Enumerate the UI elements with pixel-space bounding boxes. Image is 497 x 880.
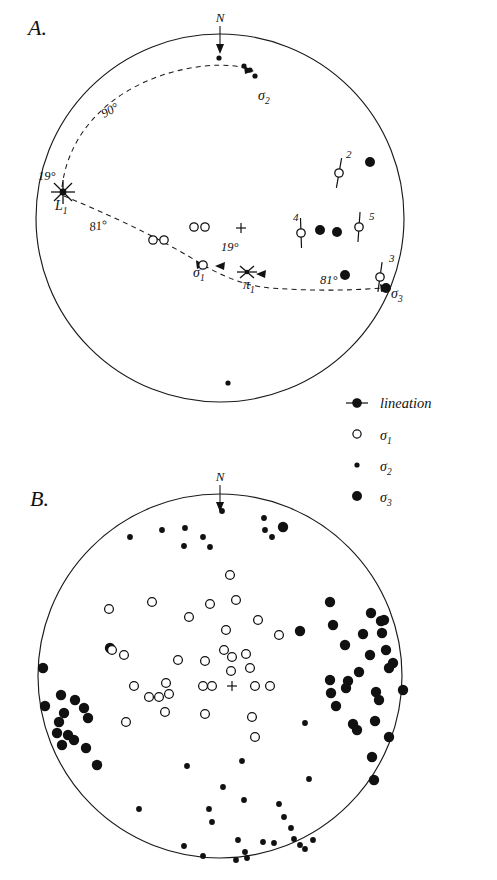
sigma1-point bbox=[199, 682, 208, 691]
center-cross-panel-a bbox=[236, 223, 246, 233]
sigma1-point bbox=[122, 718, 131, 727]
sigma1-point bbox=[246, 664, 255, 673]
sigma3-point bbox=[54, 717, 64, 727]
sigma1-point bbox=[120, 651, 129, 660]
figure-canvas: A. N bbox=[0, 0, 497, 880]
sigma3-point bbox=[376, 616, 386, 626]
legend-lineation-label: lineation bbox=[380, 395, 432, 411]
sigma3-point bbox=[79, 703, 89, 713]
sigma2-point bbox=[127, 534, 133, 540]
legend-sigma1-label: σ1 bbox=[380, 428, 392, 446]
sigma1-point bbox=[130, 682, 139, 691]
sigma2-point bbox=[241, 63, 246, 68]
sigma2-point bbox=[271, 840, 277, 846]
sigma3-point bbox=[40, 701, 50, 711]
sigma2-point bbox=[159, 527, 165, 533]
angle19-arrowhead-left bbox=[215, 262, 225, 270]
sigma2-point bbox=[247, 67, 252, 72]
sigma2-point bbox=[219, 508, 225, 514]
sigma3-point bbox=[315, 225, 325, 235]
sigma3-point bbox=[377, 628, 387, 638]
sigma3-point bbox=[367, 752, 377, 762]
panel-a-letter: A. bbox=[26, 15, 47, 40]
sigma1-point bbox=[201, 710, 210, 719]
sigma1-point bbox=[266, 682, 275, 691]
sigma1-point bbox=[105, 605, 114, 614]
sigma2-point bbox=[302, 720, 308, 726]
sigma3-point bbox=[331, 701, 341, 711]
sigma2-point bbox=[302, 846, 308, 852]
sigma3-point bbox=[352, 725, 362, 735]
sigma1-point bbox=[148, 598, 157, 607]
sigma1-point bbox=[108, 646, 117, 655]
label-pi1: π1 bbox=[243, 277, 255, 295]
north-label: N bbox=[215, 469, 226, 484]
legend-sigma3-symbol bbox=[352, 491, 362, 501]
center-cross-panel-b bbox=[227, 681, 237, 691]
sigma1-point bbox=[251, 733, 260, 742]
lineation-number-label: 3 bbox=[388, 252, 395, 264]
label-subscript: 1 bbox=[200, 273, 205, 283]
sigma1-point bbox=[222, 626, 231, 635]
panel-a: A. N bbox=[26, 10, 404, 402]
lineation-dot bbox=[355, 223, 363, 231]
sigma1-point bbox=[226, 571, 235, 580]
sigma1-point bbox=[248, 713, 257, 722]
sigma1-point bbox=[174, 656, 183, 665]
sigma2-point bbox=[261, 515, 267, 521]
legend-lineation-symbol bbox=[346, 399, 368, 407]
sigma2-point bbox=[181, 543, 187, 549]
sigma2-point bbox=[181, 843, 187, 849]
north-arrow-panel-a: N bbox=[215, 10, 226, 54]
sigma2-point bbox=[220, 784, 226, 790]
lineation-number-label: 5 bbox=[369, 210, 375, 222]
sigma3-point bbox=[70, 695, 80, 705]
sigma3-point bbox=[340, 270, 350, 280]
sigma3-point bbox=[384, 732, 394, 742]
label-L1: L1 bbox=[54, 198, 68, 216]
sigma1-point bbox=[220, 646, 229, 655]
legend: lineation σ1 σ2 σ3 bbox=[346, 395, 432, 508]
label-subscript: 1 bbox=[63, 206, 68, 216]
sigma3-point bbox=[332, 227, 342, 237]
sigma2-point bbox=[235, 837, 241, 843]
sigma3-point bbox=[366, 608, 376, 618]
sigma1-point bbox=[190, 223, 198, 231]
north-arrow-head bbox=[216, 44, 224, 54]
label-sigma2: σ2 bbox=[258, 88, 270, 106]
sigma3-point bbox=[358, 629, 368, 639]
sigma2-point bbox=[136, 806, 142, 812]
lineation-dot bbox=[376, 273, 384, 281]
sigma2-point bbox=[252, 73, 257, 78]
sigma3-point bbox=[381, 283, 391, 293]
panel-a-sigma1-points bbox=[149, 223, 209, 269]
sigma2-point bbox=[207, 544, 213, 550]
sigma2-point bbox=[297, 842, 303, 848]
sigma2-point bbox=[281, 814, 287, 820]
lineation-marker: 5 bbox=[355, 210, 375, 242]
sigma2-point bbox=[244, 855, 250, 861]
sigma2-point bbox=[306, 776, 312, 782]
panel-b-sigma1-points bbox=[105, 571, 284, 742]
sigma2-point bbox=[239, 758, 245, 764]
sigma3-point bbox=[340, 640, 350, 650]
lineation-marker: 4 bbox=[293, 211, 305, 248]
sigma1-point bbox=[232, 596, 241, 605]
label-subscript: 1 bbox=[250, 285, 255, 295]
sigma1-point bbox=[201, 223, 209, 231]
sigma1-point bbox=[208, 682, 217, 691]
lineation-marker: 2 bbox=[335, 148, 352, 188]
sigma1-point bbox=[206, 600, 215, 609]
sigma3-point bbox=[326, 688, 336, 698]
sigma3-point bbox=[56, 690, 66, 700]
sigma1-point bbox=[275, 631, 284, 640]
sigma1-point bbox=[145, 693, 154, 702]
sigma2-point bbox=[276, 801, 282, 807]
panel-b-letter: B. bbox=[30, 486, 49, 511]
sigma2-point bbox=[291, 836, 297, 842]
legend-sigma2-symbol bbox=[354, 462, 359, 467]
north-label: N bbox=[215, 10, 226, 25]
sigma2-point bbox=[242, 849, 248, 855]
sigma1-point bbox=[149, 236, 157, 244]
legend-sigma3-label: σ3 bbox=[380, 490, 392, 508]
